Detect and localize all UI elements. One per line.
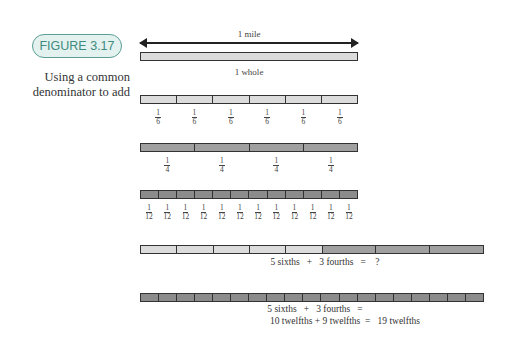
bar-segment <box>177 246 213 253</box>
fraction-label: 14 <box>249 157 304 174</box>
bar-segment <box>141 191 159 198</box>
bar-segment <box>231 191 249 198</box>
fraction-label: 112 <box>158 204 176 221</box>
bar-segment <box>177 294 195 301</box>
bar-segment <box>177 191 195 198</box>
bar-segment <box>448 294 466 301</box>
bar-segment <box>141 144 195 151</box>
bar-segment <box>213 96 249 103</box>
fraction-label: 112 <box>304 204 322 221</box>
bar-segment <box>250 144 304 151</box>
fraction-label: 16 <box>322 109 358 126</box>
bar-segment <box>322 96 357 103</box>
bar-segment <box>250 246 286 253</box>
fraction-label: 112 <box>322 204 340 221</box>
fraction-label: 14 <box>304 157 359 174</box>
whole-bar <box>140 52 358 61</box>
fraction-label: 14 <box>195 157 250 174</box>
fraction-label: 112 <box>195 204 213 221</box>
bar-segment <box>285 294 303 301</box>
bar-segment <box>322 191 340 198</box>
figure-caption: Using a common denominator to add <box>20 70 130 100</box>
fraction-label: 112 <box>176 204 194 221</box>
bar-segment <box>376 294 394 301</box>
bar-segment <box>249 191 267 198</box>
fourths-bar <box>140 143 358 152</box>
bar-segment <box>177 96 213 103</box>
bar-segment <box>214 246 250 253</box>
fraction-label: 112 <box>140 204 158 221</box>
fraction-label: 112 <box>267 204 285 221</box>
bar-segment <box>358 294 376 301</box>
bar-segment <box>195 191 213 198</box>
bar-segment <box>304 191 322 198</box>
bar-segment <box>250 96 286 103</box>
bar-segment <box>286 96 322 103</box>
mile-label: 1 mile <box>140 29 358 39</box>
bar-segment <box>267 294 285 301</box>
bar-segment <box>231 294 249 301</box>
combined-twelfths-bar <box>140 293 484 302</box>
fourths-labels: 14141414 <box>140 157 358 174</box>
sixths-bar <box>140 95 358 104</box>
bar-segment <box>286 246 322 253</box>
bar-segment <box>376 246 429 253</box>
bar-segment <box>213 294 231 301</box>
fraction-label: 14 <box>140 157 195 174</box>
fraction-label: 16 <box>249 109 285 126</box>
bar-segment <box>286 191 304 198</box>
bar-segment <box>159 191 177 198</box>
fraction-label: 16 <box>213 109 249 126</box>
bar-segment <box>430 294 448 301</box>
fraction-label: 16 <box>285 109 321 126</box>
fraction-label: 112 <box>340 204 358 221</box>
whole-label: 1 whole <box>140 67 358 77</box>
bar-segment <box>249 294 267 301</box>
combined-twelfths-equation-line1: 5 sixths + 3 fourths = <box>250 304 380 314</box>
bar-segment <box>195 294 213 301</box>
fraction-label: 16 <box>140 109 176 126</box>
bar-segment <box>340 294 358 301</box>
bar-segment <box>141 96 177 103</box>
bar-segment <box>159 294 177 301</box>
bar-segment <box>304 144 357 151</box>
twelfths-bar <box>140 190 358 199</box>
bar-segment <box>268 191 286 198</box>
bar-segment <box>213 191 231 198</box>
fraction-label: 112 <box>285 204 303 221</box>
bar-segment <box>303 294 321 301</box>
combined-bar <box>140 245 484 254</box>
bar-segment <box>195 144 249 151</box>
bar-segment <box>394 294 412 301</box>
fraction-label: 112 <box>231 204 249 221</box>
combined-equation: 5 sixths + 3 fourths = ? <box>250 257 400 267</box>
figure-badge: FIGURE 3.17 <box>32 34 122 58</box>
bar-segment <box>466 294 483 301</box>
bar-segment <box>340 191 357 198</box>
combined-twelfths-equation-line2: 10 twelfths + 9 twelfths = 19 twelfths <box>255 316 435 326</box>
sixths-labels: 161616161616 <box>140 109 358 126</box>
fraction-label: 112 <box>249 204 267 221</box>
bar-segment <box>323 246 376 253</box>
bar-segment <box>141 294 159 301</box>
bar-segment <box>412 294 430 301</box>
fraction-label: 112 <box>213 204 231 221</box>
fraction-label: 16 <box>176 109 212 126</box>
bar-segment <box>430 246 483 253</box>
bar-segment <box>141 246 177 253</box>
bar-segment <box>321 294 339 301</box>
twelfths-labels: 112112112112112112112112112112112112 <box>140 204 358 221</box>
double-arrow-icon <box>140 42 358 44</box>
